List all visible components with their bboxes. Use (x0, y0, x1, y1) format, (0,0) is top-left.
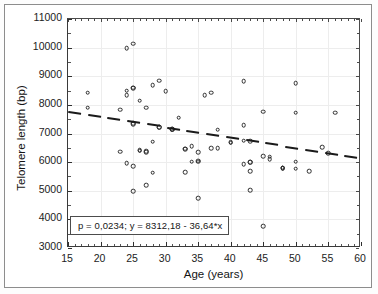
y-tick-minor-right (357, 33, 359, 34)
x-tick-minor (172, 244, 173, 247)
data-point (124, 93, 129, 98)
data-point (294, 111, 299, 116)
y-tick (68, 134, 72, 135)
x-tick-label: 60 (340, 252, 378, 264)
x-tick (198, 242, 199, 246)
gridline-vertical (263, 19, 264, 246)
x-tick-minor (159, 244, 160, 247)
data-point (183, 170, 188, 175)
x-tick-minor (322, 244, 323, 247)
data-point (215, 127, 220, 132)
x-tick-minor (309, 19, 310, 21)
x-tick-top (198, 19, 199, 22)
data-point (294, 160, 299, 165)
x-tick (101, 242, 102, 246)
gridline-horizontal (68, 48, 359, 49)
plot-area (67, 18, 360, 247)
y-tick-label: 11000 (18, 11, 62, 23)
x-tick-minor (224, 19, 225, 21)
data-point (248, 160, 253, 165)
x-tick-minor (341, 244, 342, 247)
x-tick (133, 242, 134, 246)
x-tick-minor (146, 244, 147, 247)
x-tick-minor (94, 244, 95, 247)
data-point (150, 139, 155, 144)
y-tick-right (356, 219, 359, 220)
data-point (294, 166, 299, 171)
y-tick-minor (68, 91, 71, 92)
x-tick-minor (211, 244, 212, 247)
regression-equation-box: p = 0,0234; y = 8312,18 - 36,64*x (70, 216, 229, 235)
data-point (150, 83, 155, 88)
y-tick-right (356, 162, 359, 163)
data-point (196, 158, 201, 163)
x-tick-top (361, 19, 362, 22)
data-point (261, 109, 266, 114)
x-tick-top (101, 19, 102, 22)
data-point (215, 146, 220, 151)
x-tick-minor (270, 244, 271, 247)
gridline-vertical (231, 19, 232, 246)
data-point (209, 91, 214, 96)
y-tick-right (356, 19, 359, 20)
y-tick-minor-right (357, 205, 359, 206)
x-tick-minor (192, 244, 193, 247)
y-tick (68, 76, 72, 77)
data-point (131, 85, 136, 90)
data-point (228, 140, 233, 145)
data-point (248, 169, 253, 174)
x-tick-minor (257, 244, 258, 247)
x-tick-minor (172, 19, 173, 21)
gridline-horizontal (68, 191, 359, 192)
data-point (196, 196, 201, 201)
x-tick-minor (179, 244, 180, 247)
x-tick-top (133, 19, 134, 22)
data-point (118, 150, 123, 155)
x-tick (296, 242, 297, 246)
data-point (333, 110, 338, 115)
data-point (157, 79, 162, 84)
x-tick-minor (75, 244, 76, 247)
y-tick-minor (68, 176, 71, 177)
data-point (261, 154, 266, 159)
data-point (307, 169, 312, 174)
x-tick-minor (88, 244, 89, 247)
x-tick-minor (244, 244, 245, 247)
data-point (131, 42, 136, 47)
x-tick-minor (153, 244, 154, 247)
x-tick-minor (283, 244, 284, 247)
x-tick-minor (185, 19, 186, 21)
y-tick-label: 3000 (18, 240, 62, 252)
trendline-dash (305, 149, 318, 153)
x-tick-minor (140, 19, 141, 21)
x-tick-minor (250, 244, 251, 247)
x-tick-minor (185, 244, 186, 247)
x-tick-minor (237, 244, 238, 247)
trendline-dash (107, 117, 120, 121)
x-tick-minor (107, 19, 108, 21)
x-tick-minor (224, 244, 225, 247)
x-tick (231, 242, 232, 246)
x-tick-minor (276, 19, 277, 21)
data-point (144, 183, 149, 188)
data-point (118, 107, 123, 112)
figure-container: 15202530354045505560 3000400050006000700… (0, 0, 378, 294)
trendline-dash (88, 114, 101, 118)
x-tick-minor (302, 244, 303, 247)
y-tick-right (356, 134, 359, 135)
x-tick-minor (315, 244, 316, 247)
gridline-horizontal (68, 76, 359, 77)
gridline-vertical (133, 19, 134, 246)
x-tick-top (263, 19, 264, 22)
y-tick-right (356, 105, 359, 106)
x-tick-minor (250, 19, 251, 21)
y-tick (68, 162, 72, 163)
data-point (163, 89, 168, 94)
y-tick (68, 48, 72, 49)
x-tick-minor (348, 19, 349, 21)
x-tick-minor (114, 244, 115, 247)
x-tick-minor (315, 19, 316, 21)
x-tick-top (296, 19, 297, 22)
y-tick-minor-right (357, 234, 359, 235)
data-point (183, 147, 188, 152)
